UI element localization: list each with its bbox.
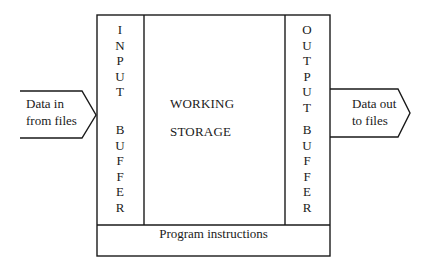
letter: U	[110, 138, 130, 154]
letter: P	[110, 53, 130, 69]
letter: T	[110, 84, 130, 100]
letter: B	[297, 122, 317, 138]
working-storage-line2: STORAGE	[170, 124, 231, 140]
letter: R	[110, 200, 130, 216]
input-buffer-label-bottom: B U F F E R	[110, 122, 130, 215]
letter: U	[297, 138, 317, 154]
working-storage-line1: WORKING	[170, 96, 234, 112]
letter: E	[297, 184, 317, 200]
letter: U	[297, 84, 317, 100]
letter: B	[110, 122, 130, 138]
output-buffer-label-bottom: B U F F E R	[297, 122, 317, 215]
letter: F	[110, 153, 130, 169]
letter: F	[110, 169, 130, 185]
output-buffer-label-top: O U T P U T	[297, 22, 317, 115]
input-arrow-line1: Data in	[26, 96, 64, 112]
input-buffer-label-top: I N P U T	[110, 22, 130, 100]
output-arrow-line2: to files	[352, 113, 388, 129]
letter: F	[297, 153, 317, 169]
letter: U	[110, 69, 130, 85]
letter: F	[297, 169, 317, 185]
letter: T	[297, 100, 317, 116]
output-arrow-line1: Data out	[352, 96, 396, 112]
letter: I	[110, 22, 130, 38]
letter: P	[297, 69, 317, 85]
letter: R	[297, 200, 317, 216]
program-instructions-label: Program instructions	[97, 226, 330, 242]
letter: U	[297, 38, 317, 54]
letter: E	[110, 184, 130, 200]
letter: O	[297, 22, 317, 38]
letter: T	[297, 53, 317, 69]
letter: N	[110, 38, 130, 54]
input-arrow-line2: from files	[26, 113, 77, 129]
